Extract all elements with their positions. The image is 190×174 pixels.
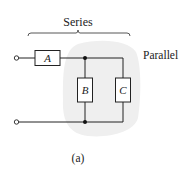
terminal-bottom [14, 120, 18, 124]
junction-top [83, 56, 87, 60]
component-c: C [116, 78, 131, 102]
component-b: B [78, 78, 93, 102]
parallel-label: Parallel [143, 49, 178, 61]
component-a-label: A [43, 52, 51, 64]
component-b-label: B [82, 84, 89, 96]
series-brace [28, 30, 130, 36]
figure-caption: (a) [72, 152, 85, 165]
junction-bottom [83, 120, 87, 124]
circuit-diagram: Series A B C Parallel (a) [0, 0, 190, 174]
terminal-top [14, 56, 18, 60]
series-label: Series [63, 15, 93, 29]
component-a: A [35, 51, 60, 66]
component-c-label: C [119, 84, 127, 96]
